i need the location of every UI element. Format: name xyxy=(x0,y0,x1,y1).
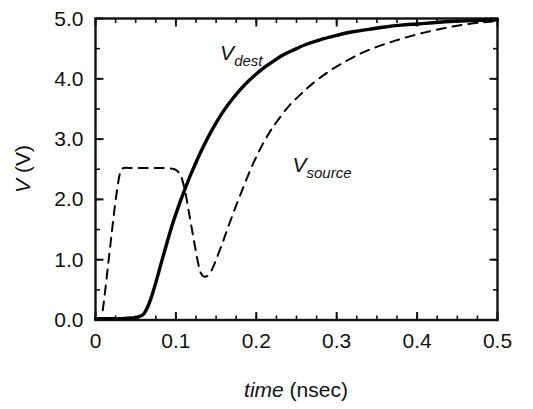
y-axis-title: V (V) xyxy=(11,145,34,193)
y-tick-label: 0.0 xyxy=(54,308,83,331)
voltage-vs-time-chart: 00.10.20.30.40.5 0.01.02.03.04.05.0 time… xyxy=(0,0,533,409)
y-tick-label: 2.0 xyxy=(54,187,83,210)
figure-container: 00.10.20.30.40.5 0.01.02.03.04.05.0 time… xyxy=(0,0,533,409)
x-tick-label: 0.2 xyxy=(242,329,271,352)
x-tick-label: 0 xyxy=(90,329,102,352)
x-tick-label: 0.3 xyxy=(322,329,351,352)
y-tick-label: 5.0 xyxy=(54,7,83,30)
x-tick-label: 0.5 xyxy=(483,329,512,352)
x-axis-title: time (nsec) xyxy=(244,378,348,401)
y-tick-label: 4.0 xyxy=(54,67,83,90)
x-tick-label: 0.4 xyxy=(402,329,432,352)
x-tick-label: 0.1 xyxy=(161,329,190,352)
y-axis-title-group: V (V) xyxy=(11,145,34,193)
y-tick-label: 3.0 xyxy=(54,127,83,150)
y-tick-label: 1.0 xyxy=(54,248,83,271)
